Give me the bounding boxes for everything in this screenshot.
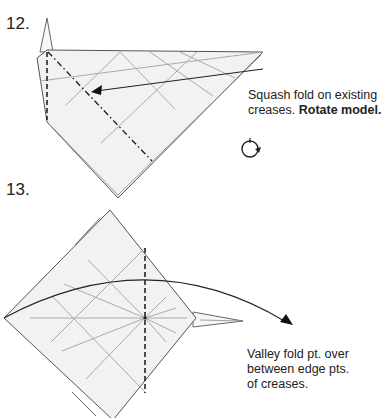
step-13-spike — [193, 312, 243, 327]
step-13-paper — [4, 210, 196, 418]
step-13-caption-line-2: between edge pts. — [247, 362, 378, 377]
step-13-caption: Valley fold pt. over between edge pts. o… — [247, 347, 378, 392]
step-13-caption-line-3: of creases. — [247, 377, 378, 392]
step-13-caption-line-1: Valley fold pt. over — [247, 347, 378, 362]
